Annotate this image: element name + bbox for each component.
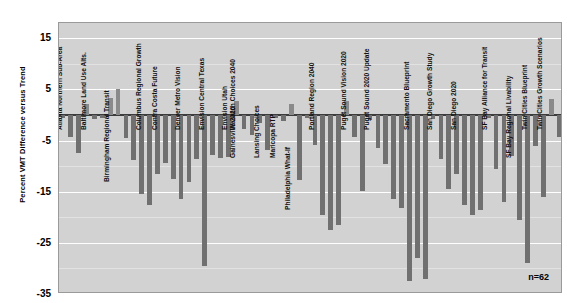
- bar: [462, 115, 467, 204]
- bar: [470, 115, 475, 215]
- bar: [486, 115, 491, 118]
- bar: [265, 115, 270, 150]
- bar: [352, 115, 357, 136]
- chart-root: Percent VMT Difference versus Trend 155-…: [0, 0, 567, 303]
- bar: [541, 115, 546, 197]
- y-tick-label: -5: [42, 134, 51, 145]
- y-tick-label: -15: [37, 185, 51, 196]
- bar: [124, 115, 129, 138]
- bar: [344, 101, 349, 115]
- bar: [399, 115, 404, 208]
- bar: [179, 115, 184, 199]
- bar: [273, 115, 278, 118]
- bar: [415, 115, 420, 258]
- bar: [525, 115, 530, 263]
- bar: [281, 115, 286, 121]
- bar: [84, 104, 89, 115]
- bar: [289, 104, 294, 115]
- bar: [502, 115, 507, 202]
- bar: [376, 115, 381, 148]
- bar: [557, 115, 562, 136]
- plot-area: Atlanta Northern Sub-AreaBaltimore Land …: [58, 22, 562, 293]
- bar: [328, 115, 333, 230]
- bar: [336, 115, 341, 225]
- bar: [431, 115, 436, 119]
- bar: [478, 115, 483, 210]
- bar: [549, 99, 554, 115]
- bar: [423, 115, 428, 279]
- bar: [242, 115, 247, 129]
- bar: [494, 115, 499, 169]
- bar: [320, 115, 325, 215]
- bar: [250, 115, 255, 135]
- bar: [297, 115, 302, 180]
- bar: [194, 115, 199, 159]
- bar: [108, 98, 113, 115]
- bar: [100, 115, 105, 118]
- bar: [313, 115, 318, 145]
- bar: [383, 115, 388, 164]
- bar: [202, 115, 207, 266]
- bar: [454, 115, 459, 174]
- bar: [368, 115, 373, 120]
- bar: [234, 101, 239, 115]
- bar: [68, 115, 73, 136]
- bar: [509, 115, 514, 156]
- y-axis-ticks: 155-5-15-25-35: [0, 0, 56, 303]
- bar: [517, 115, 522, 220]
- bar: [155, 115, 160, 174]
- y-tick-label: -35: [37, 288, 51, 299]
- bar: [360, 115, 365, 191]
- bar: [210, 115, 215, 155]
- bar: [147, 115, 152, 204]
- bar-series: [59, 23, 561, 292]
- bar: [226, 115, 231, 157]
- bar: [171, 115, 176, 179]
- bar: [257, 115, 262, 123]
- y-tick-label: -25: [37, 236, 51, 247]
- bar: [163, 115, 168, 163]
- bar: [446, 115, 451, 189]
- bar: [92, 115, 97, 119]
- bar: [391, 115, 396, 199]
- bar: [533, 115, 538, 146]
- bar: [116, 89, 121, 115]
- bar: [76, 115, 81, 153]
- bar: [218, 115, 223, 158]
- y-tick-label: 5: [45, 83, 51, 94]
- bar: [305, 115, 310, 118]
- bar: [407, 115, 412, 281]
- sample-size-annotation: n=62: [528, 272, 549, 282]
- bar: [139, 115, 144, 194]
- bar: [131, 115, 136, 160]
- bar: [187, 115, 192, 181]
- bar: [439, 115, 444, 159]
- bar: [61, 115, 66, 118]
- y-tick-label: 15: [40, 32, 51, 43]
